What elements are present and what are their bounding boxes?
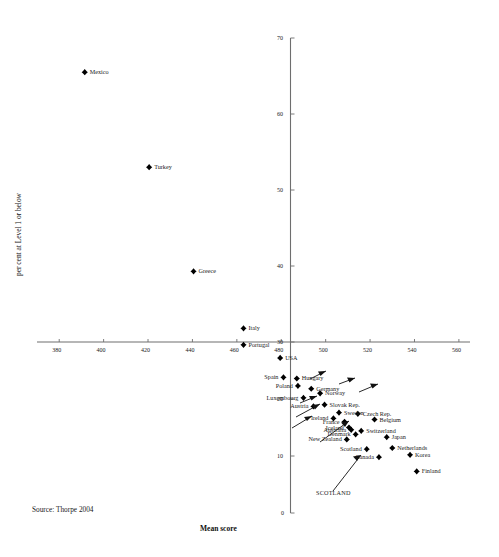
x-tick-label-380: 380 (52, 347, 61, 353)
data-point-marker (82, 69, 88, 75)
point-label: Finland (422, 468, 441, 474)
data-point-marker (190, 268, 196, 274)
y-tick-label-50: 50 (277, 187, 283, 193)
point-label: USA (285, 355, 297, 361)
point-label: Mexico (90, 69, 109, 75)
y-tick-label-0: 0 (281, 510, 284, 516)
point-label: Poland (276, 383, 293, 389)
point-label: Spain (264, 374, 278, 380)
data-point-marker (240, 342, 246, 348)
scatter-chart: 3804004204404604805005205405600102030405… (0, 0, 499, 557)
point-label: New Zealand (309, 436, 342, 442)
data-point-marker (353, 431, 359, 437)
y-tick-label-10: 10 (277, 453, 283, 459)
x-tick-label-560: 560 (452, 347, 461, 353)
data-point-marker (240, 325, 246, 331)
tick-marks (59, 38, 459, 513)
data-point-marker (384, 434, 390, 440)
point-label: Italy (249, 325, 260, 331)
data-point-marker (371, 416, 377, 422)
data-point-marker (295, 383, 301, 389)
point-label: Canada (355, 454, 374, 460)
source-note: Source: Thorpe 2004 (32, 505, 93, 514)
data-point-marker (376, 454, 382, 460)
data-point-marker (321, 402, 327, 408)
data-point-marker (389, 445, 395, 451)
data-point-marker (358, 428, 364, 434)
y-tick-label-60: 60 (277, 111, 283, 117)
data-point-marker (280, 374, 286, 380)
point-label: Scotland (340, 446, 362, 452)
x-tick-label-540: 540 (407, 347, 416, 353)
data-point-marker (364, 446, 370, 452)
data-point-marker (300, 395, 306, 401)
point-label: Greece (199, 268, 217, 274)
point-label: Portugal (249, 342, 270, 348)
scotland-callout-label: SCOTLAND (316, 489, 351, 496)
x-axis-title: Mean score (200, 524, 237, 533)
y-tick-label-30: 30 (277, 339, 283, 345)
point-label: Hungary (302, 375, 324, 381)
data-point-marker (146, 164, 152, 170)
x-tick-label-420: 420 (141, 347, 150, 353)
point-label: Austria (290, 403, 308, 409)
y-axis-title: per cent at Level 1 or below (14, 165, 23, 305)
x-tick-label-460: 460 (230, 347, 239, 353)
x-tick-label-500: 500 (319, 347, 328, 353)
x-tick-label-520: 520 (363, 347, 372, 353)
data-point-marker (407, 452, 413, 458)
point-label: Turkey (154, 164, 172, 170)
point-label: Sweden (344, 410, 364, 416)
x-tick-label-400: 400 (97, 347, 106, 353)
point-label: Japan (392, 434, 406, 440)
axis-lines (37, 38, 470, 513)
y-tick-label-40: 40 (277, 263, 283, 269)
data-point-marker (277, 355, 283, 361)
data-point-marker (308, 386, 314, 392)
y-tick-label-70: 70 (277, 35, 283, 41)
data-point-marker (294, 375, 300, 381)
point-label: Korea (415, 452, 430, 458)
point-label: Luxembourg (267, 395, 299, 401)
data-point-marker (414, 468, 420, 474)
data-point-marker (336, 410, 342, 416)
point-label: Slovak Rep. (330, 402, 360, 408)
x-tick-label-440: 440 (185, 347, 194, 353)
point-label: Norway (325, 390, 345, 396)
point-label: Belgium (380, 417, 401, 423)
x-tick-label-480: 480 (274, 347, 283, 353)
